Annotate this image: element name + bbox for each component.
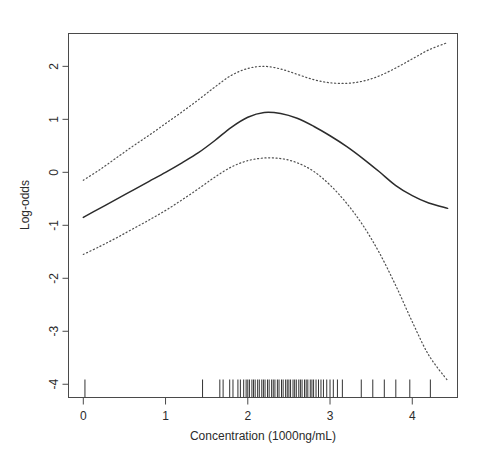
y-tick-label: 1 (48, 116, 62, 123)
y-tick-label: 0 (48, 169, 62, 176)
x-tick-label: 4 (409, 409, 416, 423)
chart-container: 210-1-2-3-4 01234 Concentration (1000ng/… (0, 0, 484, 462)
y-tick-label: -4 (48, 379, 62, 390)
log-odds-concentration-plot: 210-1-2-3-4 01234 Concentration (1000ng/… (0, 0, 484, 462)
x-tick-label: 2 (244, 409, 251, 423)
y-tick-label: 2 (48, 63, 62, 70)
x-tick-label: 3 (327, 409, 334, 423)
y-axis-title: Log-odds (18, 180, 32, 230)
x-tick-label: 0 (80, 409, 87, 423)
plot-background (0, 0, 484, 462)
x-axis-title: Concentration (1000ng/mL) (190, 429, 336, 443)
x-tick-label: 1 (162, 409, 169, 423)
y-tick-label: -3 (48, 326, 62, 337)
y-tick-label: -2 (48, 273, 62, 284)
y-tick-label: -1 (48, 220, 62, 231)
